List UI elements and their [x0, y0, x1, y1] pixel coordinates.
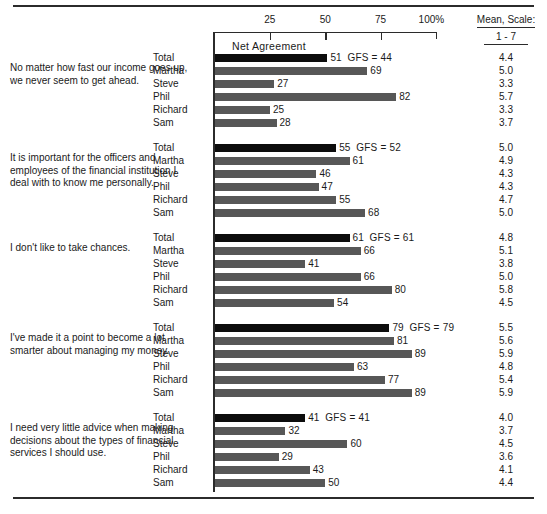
mean-value-phil: 4.8	[470, 361, 542, 373]
row-label-richard: Richard	[153, 464, 209, 476]
mean-value-richard: 5.8	[470, 284, 542, 296]
gfs-value: GFS = 41	[325, 412, 370, 424]
mean-value-richard: 4.1	[470, 464, 542, 476]
mean-value-richard: 4.7	[470, 194, 542, 206]
chart-row: Phil634.8	[0, 361, 547, 374]
mean-value-phil: 3.6	[470, 451, 542, 463]
bar-value-steve: 60	[350, 438, 361, 450]
chart-row: Sam283.7	[0, 117, 547, 130]
row-label-sam: Sam	[153, 297, 209, 309]
bar-value-phil: 29	[282, 451, 293, 463]
bar-value-richard: 77	[388, 374, 399, 386]
bar-value-phil: 66	[364, 271, 375, 283]
bar-sam	[215, 209, 366, 217]
chart-row: Richard253.3	[0, 104, 547, 117]
mean-value-richard: 5.4	[470, 374, 542, 386]
row-label-steve: Steve	[153, 168, 209, 180]
row-label-steve: Steve	[153, 258, 209, 270]
row-label-martha: Martha	[153, 335, 209, 347]
row-label-phil: Phil	[153, 271, 209, 283]
bar-richard	[215, 376, 386, 384]
axis-tick-label-100: 100%	[419, 14, 445, 25]
bar-steve	[215, 350, 412, 358]
net-agreement-label: Net Agreement	[232, 40, 306, 52]
row-label-sam: Sam	[153, 117, 209, 129]
chart-row: Total51GFS = 444.4	[0, 52, 547, 65]
axis-tick-label-50: 50	[320, 14, 331, 25]
chart-row: Sam544.5	[0, 297, 547, 310]
chart-row: Richard554.7	[0, 194, 547, 207]
gfs-value: GFS = 52	[356, 142, 401, 154]
bar-value-martha: 32	[288, 425, 299, 437]
row-label-martha: Martha	[153, 155, 209, 167]
chart-row: Phil293.6	[0, 451, 547, 464]
mean-value-steve: 5.9	[470, 348, 542, 360]
row-label-steve: Steve	[153, 348, 209, 360]
bar-value-steve: 89	[415, 348, 426, 360]
row-label-sam: Sam	[153, 477, 209, 489]
bar-martha	[215, 67, 368, 75]
bar-value-sam: 89	[415, 387, 426, 399]
bar-value-sam: 28	[280, 117, 291, 129]
mean-value-sam: 5.0	[470, 207, 542, 219]
bar-value-martha: 66	[364, 245, 375, 257]
chart-row: Steve604.5	[0, 438, 547, 451]
row-label-richard: Richard	[153, 194, 209, 206]
row-label-steve: Steve	[153, 438, 209, 450]
bar-value-richard: 55	[339, 194, 350, 206]
chart-row: Total61GFS = 614.8	[0, 232, 547, 245]
chart-row: Martha323.7	[0, 425, 547, 438]
bar-value-sam: 50	[328, 477, 339, 489]
bar-value-sam: 54	[337, 297, 348, 309]
row-label-total: Total	[153, 142, 209, 154]
row-label-martha: Martha	[153, 245, 209, 257]
bar-steve	[215, 440, 348, 448]
bar-richard	[215, 196, 337, 204]
bar-total	[215, 324, 390, 332]
gfs-value: GFS = 44	[347, 52, 392, 64]
bar-phil	[215, 183, 319, 191]
bar-richard	[215, 466, 310, 474]
row-label-steve: Steve	[153, 78, 209, 90]
row-label-martha: Martha	[153, 425, 209, 437]
chart-row: Phil474.3	[0, 181, 547, 194]
bar-phil	[215, 273, 361, 281]
bar-steve	[215, 80, 275, 88]
row-label-sam: Sam	[153, 387, 209, 399]
mean-value-steve: 4.3	[470, 168, 542, 180]
mean-value-steve: 4.5	[470, 438, 542, 450]
bar-martha	[215, 247, 361, 255]
mean-header-line1: Mean, Scale:	[477, 14, 535, 28]
chart-row: Richard805.8	[0, 284, 547, 297]
bar-martha	[215, 337, 394, 345]
mean-value-total: 5.5	[470, 322, 542, 334]
bar-value-steve: 41	[308, 258, 319, 270]
row-label-phil: Phil	[153, 361, 209, 373]
chart-row: Sam685.0	[0, 207, 547, 220]
bar-value-total: 61	[353, 232, 364, 244]
mean-value-sam: 4.4	[470, 477, 542, 489]
bar-phil	[215, 363, 355, 371]
gfs-value: GFS = 61	[370, 232, 415, 244]
bar-value-richard: 80	[395, 284, 406, 296]
bar-steve	[215, 170, 317, 178]
bar-phil	[215, 93, 397, 101]
mean-value-phil: 5.7	[470, 91, 542, 103]
bar-value-steve: 27	[277, 78, 288, 90]
mean-value-sam: 3.7	[470, 117, 542, 129]
chart-row: Martha665.1	[0, 245, 547, 258]
mean-value-sam: 4.5	[470, 297, 542, 309]
row-label-total: Total	[153, 52, 209, 64]
chart-row: Total41GFS = 414.0	[0, 412, 547, 425]
bar-value-steve: 46	[319, 168, 330, 180]
row-label-richard: Richard	[153, 104, 209, 116]
mean-value-total: 5.0	[470, 142, 542, 154]
row-label-phil: Phil	[153, 91, 209, 103]
chart-row: Sam504.4	[0, 477, 547, 490]
bar-value-martha: 69	[370, 65, 381, 77]
mean-value-richard: 3.3	[470, 104, 542, 116]
bar-richard	[215, 286, 392, 294]
bar-sam	[215, 389, 412, 397]
bar-value-phil: 82	[399, 91, 410, 103]
row-label-total: Total	[153, 322, 209, 334]
